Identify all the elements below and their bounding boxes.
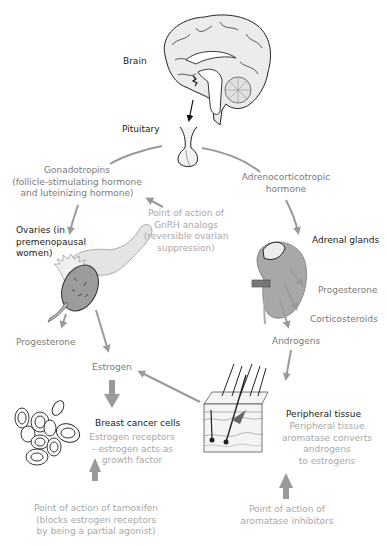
tamoxifen-line-2: (blocks estrogen receptors xyxy=(24,515,168,527)
corticosteroids-label: Corticosteroids xyxy=(310,314,378,326)
gnrh-line-4: suppression) xyxy=(140,243,232,255)
adrenal-progesterone-label: Progesterone xyxy=(318,285,378,297)
ovaries-label: Ovaries (in premenopausal women) xyxy=(16,225,86,260)
breast-cancer-description: Estrogen receptors – estrogen acts as gr… xyxy=(88,432,176,467)
brain-to-pituitary-arrow xyxy=(189,100,193,120)
aromatase-arrow xyxy=(279,473,293,499)
peripheral-line-4: to estrogens xyxy=(270,456,384,468)
gonadotropins-line-2: (follicle-stimulating hormone xyxy=(12,177,142,189)
androgens-label: Androgens xyxy=(272,336,320,348)
acth-line-1: Adrenocorticotropic xyxy=(238,172,334,184)
breast-cancer-line-2: – estrogen acts as xyxy=(88,444,176,456)
tamoxifen-line-1: Point of action of tamoxifen xyxy=(24,503,168,515)
cancer-cells-icon xyxy=(15,399,82,465)
gonadotropins-line-3: and luteinizing hormone) xyxy=(12,188,142,200)
breast-cancer-line-3: growth factor xyxy=(88,455,176,467)
tamoxifen-line-3: by being a partial agonist) xyxy=(24,526,168,538)
peripheral-line-2: aromatase converts xyxy=(270,433,384,445)
peripheral-line-1: Peripheral tissue xyxy=(270,421,384,433)
aromatase-line-2: aromatase inhibitors xyxy=(236,516,338,528)
gnrh-line-3: (reversible ovarian xyxy=(140,231,232,243)
ovaries-line-3: women) xyxy=(16,248,86,260)
breast-cancer-cells-label: Breast cancer cells xyxy=(95,418,180,430)
ovaries-line-2: premenopausal xyxy=(16,237,86,249)
gnrh-line-2: GnRH analogs xyxy=(140,220,232,232)
gnrh-line-1: Point of action of xyxy=(140,208,232,220)
estrogen-label: Estrogen xyxy=(92,362,132,374)
aromatase-line-1: Point of action of xyxy=(236,504,338,516)
adrenal-glands-label: Adrenal glands xyxy=(312,235,379,247)
brain-label: Brain xyxy=(123,56,147,68)
brain-icon xyxy=(164,15,270,125)
adrenal-gland-icon xyxy=(252,242,307,324)
skin-tissue-icon xyxy=(204,364,268,452)
gonadotropins-line-1: Gonadotropins xyxy=(12,165,142,177)
peripheral-tissue-label: Peripheral tissue xyxy=(286,409,361,421)
peripheral-line-3: androgens xyxy=(270,444,384,456)
estrogen-to-cancer-arrow xyxy=(104,380,120,408)
pituitary-label: Pituitary xyxy=(122,124,160,136)
breast-cancer-line-1: Estrogen receptors xyxy=(88,432,176,444)
ovary-progesterone-label: Progesterone xyxy=(16,337,76,349)
peripheral-tissue-description: Peripheral tissue aromatase converts and… xyxy=(270,421,384,467)
pituitary-icon xyxy=(178,127,198,167)
ovaries-line-1: Ovaries (in xyxy=(16,225,86,237)
aromatase-action-label: Point of action of aromatase inhibitors xyxy=(236,504,338,527)
gnrh-action-label: Point of action of GnRH analogs (reversi… xyxy=(140,208,232,254)
acth-line-2: hormone xyxy=(238,184,334,196)
gonadotropins-label: Gonadotropins (follicle-stimulating horm… xyxy=(12,165,142,200)
tamoxifen-action-label: Point of action of tamoxifen (blocks est… xyxy=(24,503,168,538)
acth-label: Adrenocorticotropic hormone xyxy=(238,172,334,195)
